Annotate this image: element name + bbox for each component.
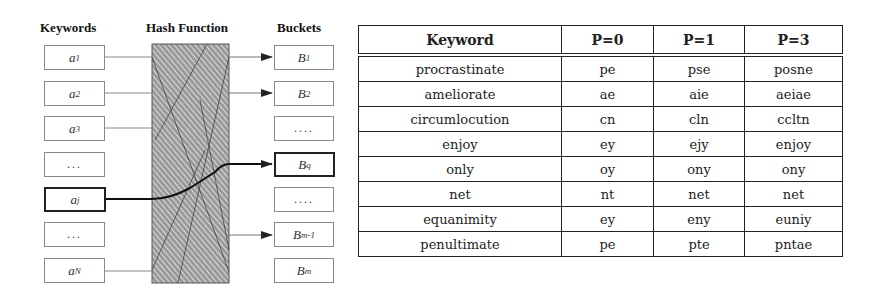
keyword-box-ellipsis: ...: [44, 222, 105, 247]
bucket-box-Bm-1: Bm-1: [274, 222, 334, 247]
cell-p3: euniy: [745, 207, 843, 232]
cell-p3: pntae: [745, 232, 843, 257]
bucket-box-ellipsis: ....: [274, 187, 334, 212]
table-row: ameliorate ae aie aeiae: [359, 82, 843, 107]
cell-p0: nt: [562, 182, 654, 207]
cell-p3: posne: [745, 57, 843, 82]
cell-p3: ony: [745, 157, 843, 182]
cell-p1: cln: [654, 107, 745, 132]
cell-keyword: equanimity: [359, 207, 562, 232]
cell-p1: eny: [654, 207, 745, 232]
keyword-box-a1: a1: [44, 45, 105, 70]
column-header-p1: P=1: [654, 26, 745, 54]
column-header-p0: P=0: [562, 26, 654, 54]
keyword-box-ellipsis: ...: [44, 152, 105, 177]
cell-p0: oy: [562, 157, 654, 182]
keyword-box-a2: a2: [44, 81, 105, 106]
cell-keyword: only: [359, 157, 562, 182]
table-row: enjoy ey ejy enjoy: [359, 132, 843, 157]
table-row: circumlocution cn cln ccltn: [359, 107, 843, 132]
table-row: procrastinate pe pse posne: [359, 57, 843, 82]
keyword-box-aN: aN: [44, 258, 105, 283]
keyword-encoding-table: Keyword P=0 P=1 P=3 procrastinate pe pse…: [358, 25, 843, 257]
bucket-box-Bm: Bm: [274, 258, 334, 283]
cell-p0: pe: [562, 232, 654, 257]
table-row: penultimate pe pte pntae: [359, 232, 843, 257]
cell-p0: ey: [562, 132, 654, 157]
cell-p3: aeiae: [745, 82, 843, 107]
bucket-box-Bq: Bq: [274, 152, 335, 177]
cell-p0: ey: [562, 207, 654, 232]
cell-keyword: procrastinate: [359, 57, 562, 82]
table-row: net nt net net: [359, 182, 843, 207]
cell-p0: pe: [562, 57, 654, 82]
keyword-box-aj: aj: [44, 187, 106, 212]
cell-p1: pte: [654, 232, 745, 257]
cell-p3: ccltn: [745, 107, 843, 132]
table-row: only oy ony ony: [359, 157, 843, 182]
cell-p3: enjoy: [745, 132, 843, 157]
table-row: equanimity ey eny euniy: [359, 207, 843, 232]
table-header-row: Keyword P=0 P=1 P=3: [359, 26, 843, 54]
cell-p1: ony: [654, 157, 745, 182]
cell-p0: cn: [562, 107, 654, 132]
cell-p1: ejy: [654, 132, 745, 157]
bucket-box-ellipsis: ....: [274, 116, 334, 141]
cell-p1: net: [654, 182, 745, 207]
cell-p0: ae: [562, 82, 654, 107]
cell-p1: pse: [654, 57, 745, 82]
bucket-box-B2: B2: [274, 81, 334, 106]
cell-keyword: net: [359, 182, 562, 207]
cell-keyword: circumlocution: [359, 107, 562, 132]
bucket-box-B1: B1: [274, 45, 334, 70]
cell-p3: net: [745, 182, 843, 207]
cell-p1: aie: [654, 82, 745, 107]
cell-keyword: enjoy: [359, 132, 562, 157]
keyword-box-a3: a3: [44, 116, 105, 141]
column-header-keyword: Keyword: [359, 26, 562, 54]
cell-keyword: ameliorate: [359, 82, 562, 107]
cell-keyword: penultimate: [359, 232, 562, 257]
column-header-p3: P=3: [745, 26, 843, 54]
